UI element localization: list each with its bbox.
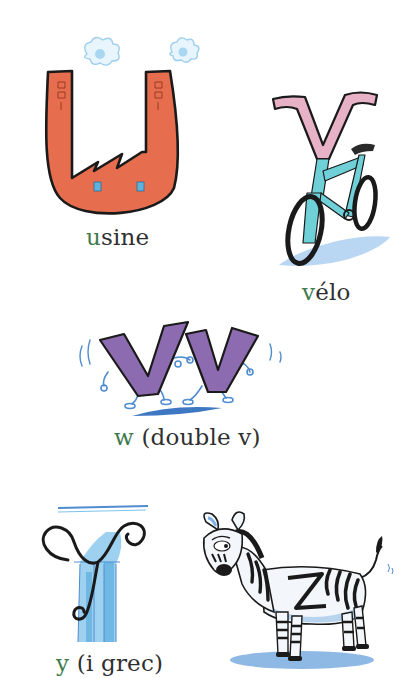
window — [137, 182, 144, 191]
bicycle-with-letter-v-handlebars-icon — [265, 85, 395, 275]
zebra-mouth — [216, 564, 232, 576]
caption-rest: élo — [315, 279, 350, 305]
two-dancing-letter-v-icon — [72, 320, 287, 422]
factory-shaped-letter-u-icon — [42, 38, 202, 223]
caption-lead-letter: y — [56, 650, 69, 676]
smoke-cloud-icon — [85, 37, 199, 65]
caption-lead-letter: u — [86, 224, 101, 250]
caption-i-grec: y (i grec) — [56, 650, 163, 676]
right-letter-v — [186, 328, 258, 392]
caption-rest: (i grec) — [69, 650, 163, 676]
caption-usine: usine — [86, 224, 149, 250]
caption-lead-letter: w — [114, 424, 134, 450]
i-grec-illustration — [28, 502, 158, 650]
velo-illustration — [265, 85, 395, 275]
double-v-illustration — [72, 320, 287, 422]
ionic-column-letter-y-icon — [28, 502, 158, 650]
caption-velo: vélo — [302, 279, 351, 305]
caption-rest: (double v) — [134, 424, 261, 450]
caption-rest: sine — [101, 224, 149, 250]
zebra-with-letter-z-icon — [192, 508, 397, 673]
window — [94, 182, 101, 191]
caption-double-v: w (double v) — [114, 424, 261, 450]
usine-illustration — [42, 38, 202, 223]
left-letter-v — [100, 322, 188, 396]
zebra-illustration — [192, 508, 397, 673]
caption-lead-letter: v — [302, 279, 315, 305]
